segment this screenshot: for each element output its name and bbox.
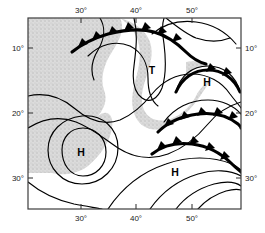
- axis-tick-label-bottom: 50°: [186, 214, 198, 223]
- axis-tick-label-top: 50°: [186, 6, 198, 15]
- axis-tick-label-left: 30°: [12, 174, 24, 183]
- axis-tick-label-right: 30°: [245, 174, 257, 183]
- axis-tick-label-top: 40°: [130, 6, 142, 15]
- synoptic-chart-canvas: T H H H 30° 40° 50° 30° 40° 50° 10° 20° …: [0, 0, 265, 233]
- axis-tick-label-top: 30°: [75, 6, 87, 15]
- axis-tick-label-left: 10°: [12, 44, 24, 53]
- pressure-center-label: H: [203, 76, 211, 88]
- axis-tick-label-left: 20°: [12, 109, 24, 118]
- pressure-center-label: H: [77, 146, 85, 158]
- axis-tick-label-right: 10°: [245, 44, 257, 53]
- synoptic-chart: T H H H 30° 40° 50° 30° 40° 50° 10° 20° …: [0, 0, 265, 233]
- axis-tick-label-right: 20°: [245, 109, 257, 118]
- pressure-center-label: H: [171, 166, 179, 178]
- axis-tick-label-bottom: 40°: [130, 214, 142, 223]
- pressure-center-label: T: [149, 64, 156, 76]
- axis-tick-label-bottom: 30°: [75, 214, 87, 223]
